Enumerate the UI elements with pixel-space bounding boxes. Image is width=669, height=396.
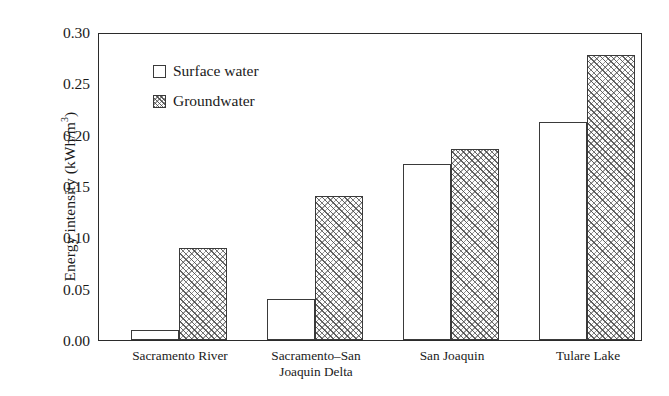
- x-tick-label-tulare-lake: Tulare Lake: [518, 348, 658, 364]
- legend-item-surface-water: Surface water: [153, 56, 259, 86]
- y-tick-label-4: 0.20: [28, 127, 90, 145]
- legend: Surface water Groundwater: [153, 56, 259, 116]
- plot-area: Surface water Groundwater: [98, 33, 642, 341]
- bar-groundwater-tulare-lake: [587, 55, 635, 340]
- legend-swatch-empty-square-icon: [153, 65, 166, 78]
- legend-swatch-hatched-square-icon: [153, 95, 166, 108]
- y-axis-title-tail: ): [61, 112, 78, 117]
- bar-surface-water-sacramento-san-joaquin-delta: [267, 299, 315, 340]
- bar-groundwater-sacramento-river: [179, 248, 227, 340]
- y-tick-label-2: 0.10: [28, 229, 90, 247]
- x-tick-label-sacramento-river: Sacramento River: [110, 348, 250, 364]
- y-tick-label-5: 0.25: [28, 75, 90, 93]
- bar-surface-water-sacramento-river: [131, 330, 179, 340]
- legend-label-groundwater: Groundwater: [173, 92, 255, 110]
- y-axis-title-exponent: 3: [59, 117, 70, 122]
- bar-chart-figure: Energy intensity (kWh/m3) 0.00 0.05 0.10…: [0, 0, 669, 396]
- bar-groundwater-sacramento-san-joaquin-delta: [315, 196, 363, 340]
- y-tick-label-6: 0.30: [28, 24, 90, 42]
- bar-surface-water-tulare-lake: [539, 122, 587, 340]
- x-tick-label-sacramento-san-joaquin-delta: Sacramento–San Joaquin Delta: [246, 348, 386, 380]
- y-tick-label-0: 0.00: [28, 332, 90, 350]
- bar-groundwater-san-joaquin: [451, 149, 499, 340]
- x-tick-label-san-joaquin: San Joaquin: [382, 348, 522, 364]
- legend-item-groundwater: Groundwater: [153, 86, 259, 116]
- y-tick-label-1: 0.05: [28, 281, 90, 299]
- legend-label-surface-water: Surface water: [173, 62, 259, 80]
- bar-surface-water-san-joaquin: [403, 164, 451, 340]
- y-tick-label-3: 0.15: [28, 178, 90, 196]
- y-axis-title-base: Energy intensity (kWh/m: [61, 122, 78, 282]
